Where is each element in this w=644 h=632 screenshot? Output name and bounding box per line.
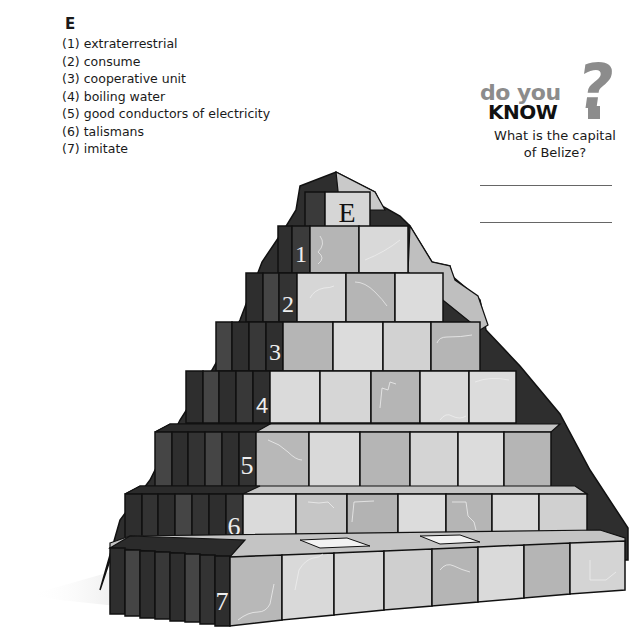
row-number: 1 [295, 241, 307, 267]
letter-block[interactable] [395, 273, 443, 322]
letter-block[interactable] [458, 432, 504, 488]
letter-block[interactable] [334, 551, 384, 615]
pyramid-row-1: 1 [278, 226, 408, 273]
letter-block[interactable] [282, 553, 334, 620]
letter-block[interactable] [504, 432, 551, 488]
letter-block[interactable] [309, 432, 360, 488]
letter-block[interactable] [420, 371, 469, 423]
pyramid-row-3: 3 [216, 322, 480, 371]
letter-block[interactable] [410, 432, 458, 488]
letter-block[interactable] [230, 555, 282, 626]
letter-block[interactable] [346, 273, 395, 322]
row-number: 3 [269, 339, 281, 365]
row-number: 2 [282, 291, 294, 317]
letter-block[interactable] [383, 322, 431, 371]
letter-block[interactable] [570, 541, 625, 594]
row-number: 4 [256, 393, 268, 418]
letter-block[interactable] [283, 322, 333, 371]
letter-block[interactable] [360, 432, 410, 488]
letter-block[interactable] [297, 273, 346, 322]
letter-block[interactable] [359, 226, 408, 273]
letter-block[interactable] [384, 549, 432, 610]
letter-block[interactable] [270, 371, 320, 423]
letter-block[interactable] [310, 226, 359, 273]
pyramid-row-2: 2 [246, 273, 443, 322]
row-number: 7 [216, 587, 229, 616]
letter-block[interactable] [371, 371, 420, 423]
letter-block[interactable] [431, 322, 480, 371]
pyramid-row-4: 4 [186, 371, 516, 423]
letter-block[interactable] [320, 371, 371, 423]
letter-block[interactable] [524, 543, 570, 598]
top-letter-block: E [305, 192, 370, 228]
pyramid-row-7: 7 [110, 530, 625, 626]
letter-block[interactable] [333, 322, 383, 371]
top-letter: E [338, 197, 355, 228]
pyramid-row-5: 5 [155, 424, 560, 488]
letter-block[interactable] [432, 547, 478, 606]
word-pyramid: E 1 2 3 [0, 0, 644, 632]
row-number: 5 [241, 451, 254, 480]
letter-block[interactable] [478, 545, 524, 602]
